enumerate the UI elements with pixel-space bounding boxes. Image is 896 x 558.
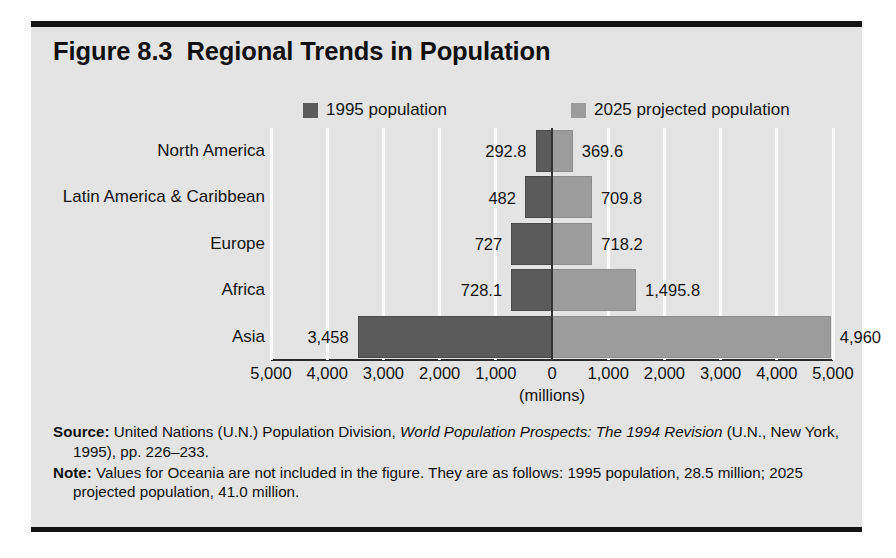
bar-2025-europe (552, 223, 592, 265)
bar-value-2025: 718.2 (601, 234, 642, 253)
figure-footnotes: Source: United Nations (U.N.) Population… (53, 422, 849, 503)
category-axis-labels: North AmericaLatin America & CaribbeanEu… (71, 128, 265, 360)
category-label-africa: Africa (222, 267, 265, 313)
tick-label: 2,000 (419, 364, 460, 383)
tick-label: 1,000 (475, 364, 516, 383)
bar-value-2025: 369.6 (582, 142, 623, 161)
figure-container: Figure 8.3 Regional Trends in Population… (0, 0, 896, 558)
bar-value-2025: 4,960 (840, 327, 881, 346)
note-label: Note: (53, 464, 92, 481)
value-axis-tick-labels: 5,0004,0003,0002,0001,00001,0002,0003,00… (271, 364, 833, 386)
bar-value-1995: 727 (475, 234, 503, 253)
category-label-latin-america-caribbean: Latin America & Caribbean (63, 174, 265, 220)
bar-1995-europe (511, 223, 552, 265)
bar-1995-north-america (536, 130, 552, 172)
tick-label: 5,000 (250, 364, 291, 383)
legend-entry-pop1995: 1995 population (303, 98, 447, 122)
zero-axis-line (551, 128, 553, 360)
tick-label: 0 (547, 364, 556, 383)
bar-value-1995: 728.1 (461, 281, 502, 300)
legend-label-pop1995: 1995 population (326, 100, 447, 120)
explanatory-note: Note: Values for Oceania are not include… (53, 463, 849, 503)
bar-value-1995: 3,458 (307, 327, 348, 346)
category-label-asia: Asia (232, 314, 265, 360)
note-text: Values for Oceania are not included in t… (73, 464, 803, 501)
tick-label: 4,000 (307, 364, 348, 383)
bar-1995-africa (511, 269, 552, 311)
bar-value-1995: 292.8 (485, 142, 526, 161)
chart-legend: 1995 population2025 projected population (31, 98, 862, 122)
tick-label: 4,000 (756, 364, 797, 383)
legend-label-pop2025: 2025 projected population (594, 100, 790, 120)
tick-label: 3,000 (363, 364, 404, 383)
bar-1995-latin-america-caribbean (525, 176, 552, 218)
category-label-europe: Europe (210, 221, 265, 267)
legend-swatch-icon-pop1995 (303, 103, 318, 118)
tick-label: 2,000 (644, 364, 685, 383)
bar-2025-north-america (552, 130, 573, 172)
tick-label: 1,000 (588, 364, 629, 383)
bar-value-2025: 709.8 (601, 188, 642, 207)
value-axis-units: (millions) (271, 386, 833, 405)
legend-entry-pop2025: 2025 projected population (571, 98, 790, 122)
source-title-italic: World Population Prospects: The 1994 Rev… (400, 423, 722, 440)
bar-2025-asia (552, 316, 831, 358)
bar-value-1995: 482 (488, 188, 516, 207)
bar-2025-africa (552, 269, 636, 311)
source-label: Source: (53, 423, 110, 440)
bar-value-2025: 1,495.8 (645, 281, 700, 300)
bar-1995-asia (358, 316, 552, 358)
figure-title: Figure 8.3 Regional Trends in Population (53, 37, 550, 66)
plot-area: 292.8369.6482709.8727718.2728.11,495.83,… (271, 128, 833, 360)
figure-panel: Figure 8.3 Regional Trends in Population… (31, 27, 862, 527)
tick-label: 5,000 (812, 364, 853, 383)
bar-2025-latin-america-caribbean (552, 176, 592, 218)
source-text-1: United Nations (U.N.) Population Divisio… (110, 423, 400, 440)
tick-label: 3,000 (700, 364, 741, 383)
source-note: Source: United Nations (U.N.) Population… (53, 422, 849, 462)
category-label-north-america: North America (157, 128, 265, 174)
legend-swatch-icon-pop2025 (571, 103, 586, 118)
bottom-rule (31, 527, 862, 532)
